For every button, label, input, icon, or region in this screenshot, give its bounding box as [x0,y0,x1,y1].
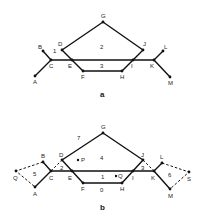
face-2: 2 [100,44,104,50]
label-a: A [33,191,37,197]
label-m: M [168,193,173,199]
vertex-k [153,170,156,173]
vertex-f [82,182,85,185]
label-c: C [49,63,54,69]
label-b: B [41,153,45,159]
vertex-a [34,186,37,189]
label-h: H [120,74,124,80]
label-j: J [141,152,144,158]
dashed-edge-j-k [143,160,154,171]
vertex-s [188,171,191,174]
vertex-g [102,21,105,24]
label-k: K [150,63,154,69]
label-k: K [151,175,155,181]
label-c: C [49,175,54,181]
label-point-q: Q [118,173,123,179]
vertex-m [169,188,172,191]
planar-graph-diagrams: A B C D E F G H I J K L M 1 2 3 a [0,0,200,224]
label-d: D [58,41,63,47]
face-0: 0 [100,187,104,193]
figure-a: A B C D E F G H I J K L M 1 2 3 a [33,13,173,99]
figure-caption-a: a [100,90,105,99]
edge-l-k-m [154,51,170,77]
face-1: 1 [53,48,57,54]
label-e: E [68,175,72,181]
label-f: F [81,186,85,192]
vertex-a [34,75,37,78]
vertex-d [61,49,64,52]
vertex-b [42,161,45,164]
figure-b: A B C D E F G H I J K L M Q S P Q 0 1 2 … [13,124,191,212]
label-q-outer: Q [13,175,18,181]
face-3: 3 [100,63,104,69]
figure-caption-b: b [100,203,105,212]
face-1: 1 [101,174,105,180]
face-2: 2 [60,165,64,171]
vertex-q-outer [15,170,18,173]
label-i: I [132,175,134,181]
face-6: 6 [168,172,172,178]
vertex-e [71,170,74,173]
vertex-j [142,159,145,162]
vertex-k [153,59,156,62]
vertex-l [162,50,165,53]
vertex-g [102,132,105,135]
vertex-l [161,162,164,165]
face-5: 5 [33,171,37,177]
vertex-h [121,182,124,185]
point-q [115,175,117,177]
vertex-h [121,70,124,73]
label-i: I [131,63,133,69]
point-p [77,159,79,161]
label-d: D [59,152,64,158]
label-l: L [160,154,164,160]
vertex-e [71,59,74,62]
label-l: L [164,44,168,50]
label-a: A [33,79,37,85]
vertex-b [42,50,45,53]
label-g: G [101,124,106,130]
vertex-f [82,70,85,73]
label-m: M [168,80,173,86]
vertex-c [50,170,53,173]
label-s: S [187,176,191,182]
vertex-i [132,170,135,173]
label-b: B [38,44,42,50]
vertex-c [50,59,53,62]
vertex-d [61,159,64,162]
label-f: F [81,74,85,80]
face-4: 4 [100,155,104,161]
vertex-j [142,49,145,52]
vertex-i [132,59,135,62]
label-h: H [120,186,124,192]
vertex-m [169,76,172,79]
label-g: G [101,13,106,19]
label-point-p: P [81,157,85,163]
face-3: 3 [141,165,145,171]
label-e: E [68,63,72,69]
label-j: J [143,41,146,47]
face-7: 7 [77,135,81,141]
